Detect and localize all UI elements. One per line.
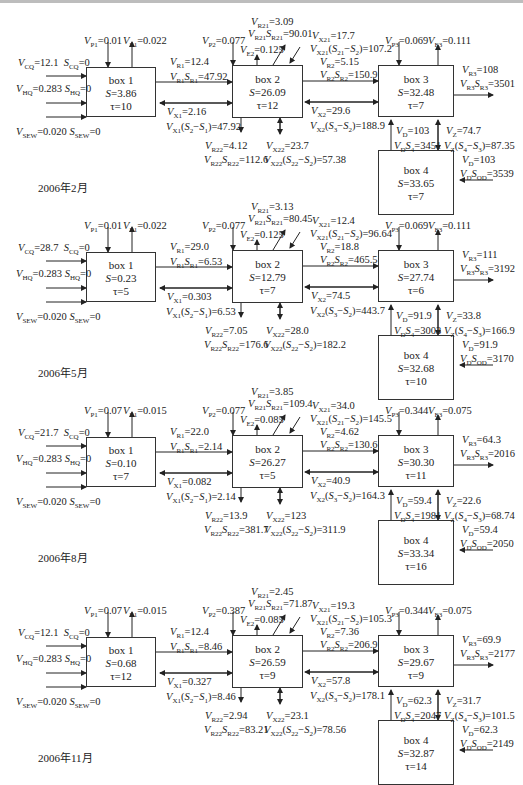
box-title: box 3 [379,443,453,456]
label-vr2sr2: VR2SR2=150.9 [320,69,378,85]
label-vx1s: VX1(S2−S1)=2.14 [166,491,236,507]
label-vp2: VP2=0.077 [202,405,245,421]
label-ve2: VE2=0.085 [240,614,284,630]
box-1: box 1S=0.68τ=12 [86,637,156,687]
label-vx2s: VX2(S3−S2)=178.1 [310,690,385,706]
panel-4: box 1S=0.68τ=12box 2S=26.59τ=9box 3S=29.… [0,570,523,755]
label-vp3: VP3=0.069 [385,35,428,51]
box-4: box 4S=32.87τ=14 [378,720,454,785]
label-vr21sr21: VR21SR21=109.4 [248,398,313,414]
label-vdsod: VDSOD=2050 [460,538,514,554]
box-tau: τ=6 [379,284,453,297]
label-vr1: VR1=12.4 [170,626,209,642]
box-title: box 1 [87,644,155,657]
label-vx1: VX1=0.327 [167,676,212,692]
box-tau: τ=9 [233,669,302,682]
label-vr3sr3: VR3SR3=3501 [460,78,515,94]
box-title: box 1 [87,444,155,457]
label-vr1: VR1=29.0 [170,241,209,257]
label-vds4: VDS4=3451 [394,140,441,156]
label-vd: VD=103 [396,125,429,141]
label-vr2sr2: VR2SR2=465.5 [320,254,378,270]
box-tau: τ=12 [233,99,302,112]
label-ve3: VE3=0.111 [428,35,471,51]
label-vx1: VX1=0.082 [167,476,212,492]
label-ve2: VE2=0.125 [240,44,284,60]
label-vx22s: VX22(S22−S2)=182.2 [264,339,346,355]
label-vz: VZ=33.8 [446,310,481,326]
box-title: box 2 [233,443,302,456]
label-vsew: VSEW=0.020 SSEW=0 [16,311,101,327]
box-salinity: S=26.09 [233,86,302,99]
box-salinity: S=3.86 [87,87,155,100]
label-vcq: VCQ=12.1 SCQ=0 [18,57,90,73]
label-vr22sr22: VR22SR22=83.21 [204,724,269,740]
label-vr21sr21: VR21SR21=71.87 [248,598,313,614]
label-vsew: VSEW=0.020 SSEW=0 [16,126,101,142]
box-salinity: S=30.30 [379,456,453,469]
label-vx2: VX2=57.8 [311,675,350,691]
label-vr22sr22: VR22SR22=176.6 [204,339,269,355]
label-vp2: VP2=0.077 [202,35,245,51]
label-vp3: VP3=0.069 [385,220,428,236]
box-title: box 3 [379,73,453,86]
label-vhq: VHQ=0.283 SHQ=0 [16,83,91,99]
panel-2: box 1S=0.23τ=5box 2S=12.79τ=7box 3S=27.7… [0,185,523,370]
label-vz: VZ=31.7 [446,695,481,711]
box-tau: τ=7 [233,284,302,297]
label-vx1: VX1=0.303 [167,291,212,307]
box-tau: τ=12 [87,670,155,683]
label-vp3: VP3=0.344 [385,405,428,421]
box-1: box 1S=0.23τ=5 [86,252,156,302]
label-vhq: VHQ=0.283 SHQ=0 [16,268,91,284]
box-tau: τ=5 [233,469,302,482]
box-tau: τ=5 [87,285,155,298]
label-vdsod: VDSOD=3170 [460,353,514,369]
label-ve1: VE1=0.015 [123,405,167,421]
label-ve1: VE1=0.022 [123,220,167,236]
label-vds4: VDS4=1981 [394,510,441,526]
box-title: box 3 [379,643,453,656]
box-1: box 1S=3.86τ=10 [86,67,156,117]
box-salinity: S=0.68 [87,657,155,670]
label-ve1: VE1=0.015 [123,605,167,621]
label-ve2: VE2=0.125 [240,229,284,245]
panel-date: 2006年11月 [38,749,93,765]
box-tau: τ=14 [379,760,453,773]
label-vz: VZ=74.7 [446,125,481,141]
label-vx1s: VX1(S2−S1)=47.92 [166,121,241,137]
label-vx22s: VX22(S22−S2)=311.9 [264,524,346,540]
label-vr21sr21: VR21SR21=90.01 [248,28,313,44]
box-title: box 3 [379,258,453,271]
label-vcq: VCQ=21.7 SCQ=0 [18,427,90,443]
box-title: box 4 [379,349,453,362]
label-vx2s: VX2(S3−S2)=443.7 [310,305,385,321]
label-ve2: VE2=0.085 [240,414,284,430]
label-vx2s: VX2(S3−S2)=164.3 [310,490,385,506]
label-vp1: VP1=0.07 [84,405,122,421]
box-salinity: S=27.74 [379,271,453,284]
box-3: box 3S=30.30τ=11 [378,435,454,487]
label-vx2: VX2=74.5 [311,290,350,306]
label-vx2s: VX2(S3−S2)=188.9 [310,120,385,136]
label-vr21sr21: VR21SR21=80.45 [248,213,313,229]
label-vx22s: VX22(S22−S2)=78.56 [264,724,346,740]
label-vcq: VCQ=12.1 SCQ=0 [18,627,90,643]
label-vr3sr3: VR3SR3=2177 [460,648,515,664]
label-vr3sr3: VR3SR3=2016 [460,448,515,464]
label-vr2sr2: VR2SR2=130.6 [320,439,378,455]
box-salinity: S=0.10 [87,457,155,470]
box-salinity: S=0.23 [87,272,155,285]
label-vr3sr3: VR3SR3=3192 [460,263,515,279]
box-tau: τ=7 [379,99,453,112]
label-vp2: VP2=0.387 [202,605,245,621]
label-ve3: VE3=0.075 [428,605,472,621]
box-title: box 1 [87,259,155,272]
label-vp3: VP3=0.344 [385,605,428,621]
label-vx1: VX1=2.16 [167,106,206,122]
box-2: box 2S=12.79τ=7 [232,250,303,303]
label-vd: VD=59.4 [396,495,432,511]
label-vdsod: VDSOD=2149 [460,738,514,754]
label-ve3: VE3=0.075 [428,405,472,421]
panel-date: 2006年8月 [38,549,88,565]
